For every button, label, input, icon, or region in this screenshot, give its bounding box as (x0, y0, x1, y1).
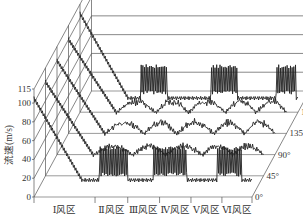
depth-label: 135° (290, 128, 304, 138)
x-category-label: Ⅳ风区 (161, 205, 191, 215)
x-category-label: Ⅰ风区 (53, 205, 77, 215)
series-1 (46, 80, 264, 157)
y-tick-label: 60 (22, 136, 32, 146)
waterfall-chart: 020406080100115流速(m/s)Ⅰ风区Ⅱ风区Ⅲ风区Ⅳ风区Ⅴ风区Ⅵ风区… (0, 0, 303, 220)
depth-label: 90° (278, 150, 291, 160)
y-axis-label: 流速(m/s) (3, 125, 15, 165)
x-category-label: Ⅱ风区 (98, 205, 124, 215)
y-tick-label: 0 (27, 192, 32, 202)
series-0 (34, 97, 252, 183)
y-tick-label: 80 (22, 117, 32, 127)
x-category-label: Ⅲ风区 (129, 205, 158, 215)
x-category-label: Ⅵ风区 (221, 205, 252, 215)
series-4 (80, 12, 298, 100)
y-tick-label: 20 (22, 173, 32, 183)
depth-label: 45° (267, 171, 280, 181)
series-3 (69, 38, 287, 115)
y-tick-label: 100 (18, 98, 32, 108)
depth-label: 0° (255, 192, 264, 202)
y-tick-label: 115 (18, 84, 32, 94)
y-tick-label: 40 (22, 154, 32, 164)
depth-label: 180° (301, 107, 303, 117)
series-curves (34, 12, 298, 182)
x-category-label: Ⅴ风区 (192, 205, 220, 215)
